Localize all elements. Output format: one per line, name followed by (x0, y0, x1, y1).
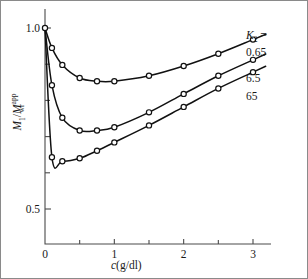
data-point (60, 159, 65, 164)
y-axis-label-m1: M (11, 121, 23, 131)
x-axis-label: c(g/dl) (111, 259, 142, 271)
data-point (181, 104, 186, 109)
legend-item-0_65: 0.65 (246, 47, 266, 59)
y-axis-label-m2-sub: wr (18, 105, 27, 113)
data-point (112, 140, 117, 145)
figure-container: 01231.00.5 M1/Mappwr c(g/dl) K2 = 0.65 6… (0, 0, 308, 279)
data-point (216, 73, 221, 78)
y-axis-label-m2-sup: app (9, 94, 18, 105)
data-curves-group (45, 28, 266, 168)
data-point (94, 79, 99, 84)
data-point (42, 25, 47, 30)
curve-0.65 (45, 28, 266, 82)
data-point (60, 62, 65, 67)
data-point (112, 125, 117, 130)
legend-header-eq: = (257, 29, 266, 41)
data-point (216, 51, 221, 56)
data-point (49, 83, 54, 88)
y-axis-label: M1/Mappwr (9, 75, 26, 161)
y-tick-label: 0.5 (26, 203, 41, 215)
data-point (112, 79, 117, 84)
legend-header-k: K (246, 29, 254, 41)
legend-header: K2 = (246, 30, 267, 44)
data-point (49, 155, 54, 160)
curve-65 (45, 28, 266, 168)
y-axis-label-m1-sub: 1 (18, 117, 27, 121)
data-point (146, 123, 151, 128)
data-point (146, 73, 151, 78)
ticks-group (45, 28, 253, 244)
data-point (77, 156, 82, 161)
data-point (77, 75, 82, 80)
axes-group (45, 9, 271, 244)
data-point (181, 91, 186, 96)
data-point (94, 128, 99, 133)
x-axis-label-units: (g/dl) (116, 259, 142, 271)
data-point (60, 115, 65, 120)
data-point (181, 63, 186, 68)
data-point (49, 45, 54, 50)
data-markers-group (42, 25, 255, 163)
data-point (216, 86, 221, 91)
y-tick-label: 1.0 (26, 22, 41, 34)
tick-labels-group: 01231.00.5 (26, 22, 257, 260)
data-point (94, 148, 99, 153)
legend-item-65: 65 (246, 91, 258, 103)
data-point (146, 110, 151, 115)
x-tick-label: 2 (181, 248, 187, 260)
x-tick-label: 3 (250, 248, 256, 260)
y-axis-label-slash: / (11, 114, 23, 117)
axis-spines (45, 9, 271, 244)
x-tick-label: 0 (42, 248, 48, 260)
data-point (77, 128, 82, 133)
legend-item-6_5: 6.5 (246, 73, 260, 85)
